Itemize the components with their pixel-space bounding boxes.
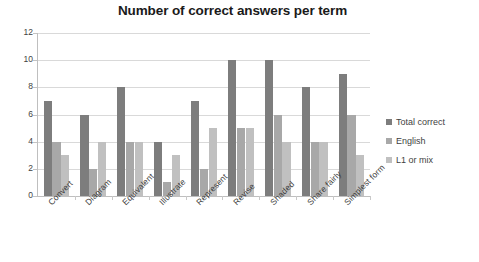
x-tick-mark [370, 196, 371, 200]
bar-group [149, 33, 186, 196]
legend-label: English [396, 136, 426, 146]
bar-group [112, 33, 149, 196]
chart-legend: Total correctEnglishL1 or mix [386, 113, 479, 170]
y-tick-label: 12 [5, 28, 33, 37]
bar [117, 87, 125, 196]
bar [191, 101, 199, 196]
plot-area [38, 33, 370, 196]
legend-item[interactable]: L1 or mix [386, 151, 479, 168]
bar [154, 142, 162, 196]
y-tick-label: 4 [5, 137, 33, 146]
y-tick-label: 8 [5, 82, 33, 91]
bar [302, 87, 310, 196]
legend-swatch-icon [386, 119, 392, 125]
bar [265, 60, 273, 196]
legend-label: Total correct [396, 117, 445, 127]
bar [80, 115, 88, 197]
bar-group [296, 33, 333, 196]
bar-group [222, 33, 259, 196]
y-tick-label: 0 [5, 191, 33, 200]
bar [347, 115, 355, 197]
bar-group [259, 33, 296, 196]
y-tick-label: 10 [5, 55, 33, 64]
bar-group [75, 33, 112, 196]
bar-chart: Number of correct answers per term 02468… [0, 0, 479, 262]
bar [44, 101, 52, 196]
legend-item[interactable]: English [386, 132, 479, 149]
legend-label: L1 or mix [396, 155, 433, 165]
bar-group [186, 33, 223, 196]
chart-title: Number of correct answers per term [0, 3, 465, 18]
y-tick-label: 6 [5, 110, 33, 119]
bar [228, 60, 236, 196]
legend-swatch-icon [386, 138, 392, 144]
legend-swatch-icon [386, 157, 392, 163]
y-axis-labels: 024681012 [0, 0, 33, 262]
y-tick-label: 2 [5, 164, 33, 173]
x-axis-labels: ConvertDiagramEquivalentIllustrateRepres… [38, 198, 370, 262]
legend-item[interactable]: Total correct [386, 113, 479, 130]
bar [274, 115, 282, 197]
bar-group [38, 33, 75, 196]
